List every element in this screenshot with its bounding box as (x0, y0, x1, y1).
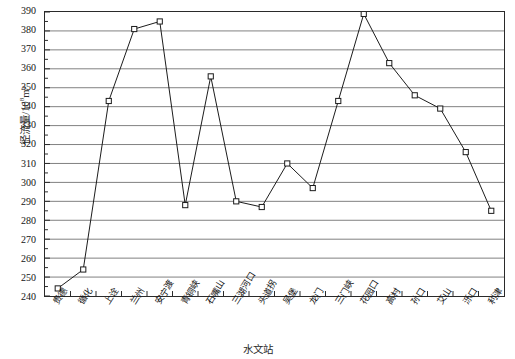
x-axis-title: 水文站 (0, 341, 515, 356)
series-polyline (58, 14, 491, 289)
y-axis-tick-label: 300 (8, 178, 36, 188)
data-point-marker (361, 12, 366, 16)
y-axis-tick-label: 380 (8, 25, 36, 35)
y-axis-tick-label: 290 (8, 197, 36, 207)
y-axis-tick-label: 250 (8, 273, 36, 283)
y-axis-tick-label: 320 (8, 139, 36, 149)
y-axis-tick-label: 350 (8, 82, 36, 92)
y-axis-tick-labels: 3903803703603503403303203103002902802702… (6, 0, 36, 359)
data-point-marker (463, 150, 468, 155)
y-axis-tick-label: 360 (8, 63, 36, 73)
data-point-marker (387, 61, 392, 66)
data-point-marker (336, 98, 341, 103)
data-point-marker (183, 203, 188, 208)
y-axis-tick-label: 280 (8, 216, 36, 226)
x-axis-tick-labels: 贵德循化上诠兰州安宁渡青铜峡石嘴山三湖河口头道拐吴堡龙门三门峡花园口高村孙口艾山… (44, 299, 505, 345)
y-axis-tick-label: 370 (8, 44, 36, 54)
y-axis-tick-label: 340 (8, 101, 36, 111)
data-point-marker (259, 204, 264, 209)
y-axis-tick-label: 310 (8, 159, 36, 169)
data-point-marker (310, 185, 315, 190)
y-axis-tick-label: 240 (8, 292, 36, 302)
data-point-marker (106, 98, 111, 103)
data-point-marker (438, 106, 443, 111)
y-axis-tick-label: 330 (8, 120, 36, 130)
data-point-marker (412, 93, 417, 98)
plot-area (44, 11, 505, 297)
y-axis-tick-label: 270 (8, 235, 36, 245)
data-point-marker (81, 267, 86, 272)
y-axis-tick-label: 260 (8, 254, 36, 264)
data-point-marker (489, 208, 494, 213)
data-series-line (45, 12, 504, 296)
data-point-marker (157, 19, 162, 24)
data-point-marker (132, 26, 137, 31)
data-point-marker (285, 161, 290, 166)
data-point-marker (208, 74, 213, 79)
y-axis-tick-label: 390 (8, 6, 36, 16)
data-point-marker (234, 199, 239, 204)
runoff-line-chart: 径流量/108m³ 390380370360350340330320310300… (0, 0, 515, 359)
